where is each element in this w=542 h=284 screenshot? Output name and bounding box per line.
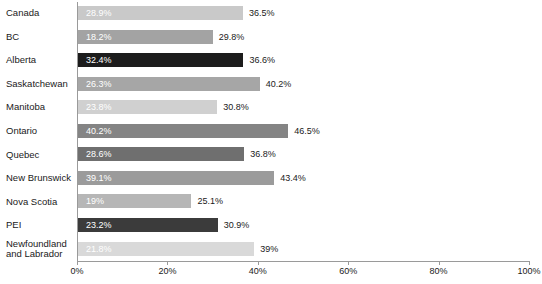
bar-inner-value-label: 19% [86, 194, 104, 208]
bar-end-value-label: 36.5% [249, 6, 275, 20]
x-tick-label: 80% [430, 266, 448, 276]
bar-inner-value-label: 28.6% [86, 147, 112, 161]
bar-end-value-label: 36.8% [250, 147, 276, 161]
bar-inner-value-label: 40.2% [86, 124, 112, 138]
category-label: New Brunswick [6, 167, 76, 190]
bar-row: Quebec28.6%36.8% [0, 143, 542, 166]
category-label: Newfoundland and Labrador [6, 238, 76, 261]
bar-inner-value-label: 28.9% [86, 6, 112, 20]
bar-track: 26.3%40.2% [78, 73, 538, 96]
bar-track: 32.4%36.6% [78, 49, 538, 72]
bar-track: 39.1%43.4% [78, 167, 538, 190]
category-label: Saskatchewan [6, 73, 76, 96]
bar-track: 18.2%29.8% [78, 26, 538, 49]
bar-row: Manitoba23.8%30.8% [0, 96, 542, 119]
bar-inner-value-label: 23.2% [86, 218, 112, 232]
category-label: Nova Scotia [6, 190, 76, 213]
x-tick-mark-20pct [167, 261, 168, 265]
bar-end-value-label: 46.5% [294, 124, 320, 138]
bar-track: 40.2%46.5% [78, 120, 538, 143]
bar-end-value-label: 40.2% [266, 77, 292, 91]
x-tick-label: 60% [339, 266, 357, 276]
x-tick-mark-0pct [77, 261, 78, 265]
bar-track: 19%25.1% [78, 190, 538, 213]
x-tick-mark-100pct [529, 261, 530, 265]
bar-row: Alberta32.4%36.6% [0, 49, 542, 72]
bar-end-value-label: 30.9% [224, 218, 250, 232]
bar-inner-value-label: 39.1% [86, 171, 112, 185]
bar-row: Ontario40.2%46.5% [0, 120, 542, 143]
x-tick-label: 20% [158, 266, 176, 276]
bar-end-value-label: 36.6% [249, 53, 275, 67]
x-tick-label: 0% [70, 266, 83, 276]
bar-row: New Brunswick39.1%43.4% [0, 167, 542, 190]
bar-inner-value-label: 26.3% [86, 77, 112, 91]
bar-row: Newfoundland and Labrador21.8%39% [0, 238, 542, 261]
bar-end-value-label: 25.1% [197, 194, 223, 208]
category-label: Quebec [6, 143, 76, 166]
bar-end-value-label: 39% [260, 242, 278, 256]
bar-row: BC18.2%29.8% [0, 26, 542, 49]
category-label: Ontario [6, 120, 76, 143]
category-label: BC [6, 26, 76, 49]
bar-inner-value-label: 23.8% [86, 100, 112, 114]
bar-inner-value-label: 21.8% [86, 242, 112, 256]
x-tick-mark-80pct [439, 261, 440, 265]
bar-track: 23.2%30.9% [78, 214, 538, 237]
category-label: Canada [6, 2, 76, 25]
x-tick-label: 100% [517, 266, 540, 276]
bar-track: 23.8%30.8% [78, 96, 538, 119]
category-label: Manitoba [6, 96, 76, 119]
bar-row: Nova Scotia19%25.1% [0, 190, 542, 213]
bar-track: 21.8%39% [78, 238, 538, 261]
bar-track: 28.9%36.5% [78, 2, 538, 25]
bar-end-value-label: 30.8% [223, 100, 249, 114]
x-tick-label: 40% [249, 266, 267, 276]
category-label: Alberta [6, 49, 76, 72]
plot-area: 0%20%40%60%80%100% Canada28.9%36.5%BC18.… [0, 0, 542, 284]
bar-inner-value-label: 32.4% [86, 53, 112, 67]
bar-track: 28.6%36.8% [78, 143, 538, 166]
horizontal-bar-chart: 0%20%40%60%80%100% Canada28.9%36.5%BC18.… [0, 0, 542, 284]
x-tick-mark-60pct [348, 261, 349, 265]
x-tick-mark-40pct [258, 261, 259, 265]
x-axis-line [77, 261, 530, 262]
bar-row: Canada28.9%36.5% [0, 2, 542, 25]
bar-inner-value-label: 18.2% [86, 30, 112, 44]
bar-end-value-label: 29.8% [219, 30, 245, 44]
bar-row: PEI23.2%30.9% [0, 214, 542, 237]
bar-row: Saskatchewan26.3%40.2% [0, 73, 542, 96]
category-label: PEI [6, 214, 76, 237]
bar-end-value-label: 43.4% [280, 171, 306, 185]
